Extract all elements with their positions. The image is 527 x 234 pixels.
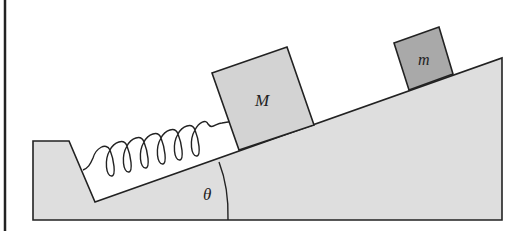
angle-label: θ: [203, 185, 211, 204]
incline-diagram: θ M m: [0, 0, 527, 234]
small-block-label: m: [418, 51, 430, 68]
large-block-label: M: [254, 91, 270, 110]
